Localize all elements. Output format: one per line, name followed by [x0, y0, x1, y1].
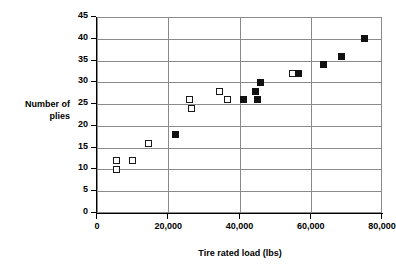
x-axis-tick	[381, 214, 382, 219]
x-axis-tick	[239, 214, 240, 219]
y-axis-title: Number of plies	[2, 98, 70, 122]
y-axis-tick	[91, 38, 96, 39]
x-axis-line	[96, 213, 383, 214]
x-axis-tick	[167, 214, 168, 219]
data-point-open	[216, 88, 223, 95]
y-axis-tick-label: 35	[62, 54, 88, 64]
data-point-filled	[295, 70, 302, 77]
y-axis-tick	[91, 212, 96, 213]
data-point-filled	[338, 53, 345, 60]
y-axis-tick	[91, 168, 96, 169]
x-gridline	[168, 18, 169, 212]
y-axis-tick-label: 0	[62, 206, 88, 216]
x-axis-tick	[310, 214, 311, 219]
data-point-open	[186, 96, 193, 103]
y-axis-tick	[91, 190, 96, 191]
scatter-chart: Number of plies Tire rated load (lbs) 05…	[0, 0, 396, 269]
y-axis-title-line-2: plies	[2, 110, 70, 122]
y-axis-tick-label: 20	[62, 119, 88, 129]
data-point-open	[145, 140, 152, 147]
y-axis-tick	[91, 16, 96, 17]
x-axis-tick	[96, 214, 97, 219]
data-point-filled	[254, 96, 261, 103]
x-gridline	[240, 18, 241, 212]
y-axis-tick	[91, 81, 96, 82]
y-axis-tick-label: 45	[62, 10, 88, 20]
y-axis-tick-label: 25	[62, 97, 88, 107]
data-point-filled	[361, 35, 368, 42]
y-axis-tick	[91, 60, 96, 61]
data-point-filled	[257, 79, 264, 86]
data-point-open	[113, 166, 120, 173]
y-axis-tick	[91, 103, 96, 104]
plot-area	[97, 17, 382, 213]
x-axis-tick-label: 60,000	[281, 221, 341, 231]
data-point-filled	[320, 61, 327, 68]
data-point-open	[129, 157, 136, 164]
data-point-filled	[240, 96, 247, 103]
y-axis-title-line-1: Number of	[2, 98, 70, 110]
data-point-open	[188, 105, 195, 112]
y-axis-tick-label: 10	[62, 162, 88, 172]
data-point-filled	[252, 88, 259, 95]
data-point-open	[224, 96, 231, 103]
x-gridline	[311, 18, 312, 212]
x-axis-tick-label: 80,000	[352, 221, 396, 231]
x-axis-tick-label: 0	[67, 221, 127, 231]
y-axis-tick-label: 40	[62, 32, 88, 42]
data-point-open	[113, 157, 120, 164]
x-axis-tick-label: 20,000	[138, 221, 198, 231]
x-axis-title: Tire rated load (lbs)	[100, 248, 380, 258]
x-axis-tick-label: 40,000	[210, 221, 270, 231]
data-point-filled	[172, 131, 179, 138]
y-axis-tick-label: 15	[62, 141, 88, 151]
y-axis-tick-label: 30	[62, 75, 88, 85]
y-axis-tick-label: 5	[62, 184, 88, 194]
y-axis-tick	[91, 125, 96, 126]
y-axis-tick	[91, 147, 96, 148]
y-axis-line	[96, 17, 97, 214]
